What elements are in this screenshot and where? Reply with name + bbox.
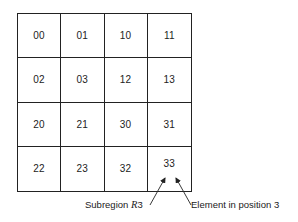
arrow-subregion [150, 178, 165, 205]
label-subregion: Subregion R3 [85, 199, 143, 210]
annotation-arrows [0, 0, 298, 222]
label-element-position: Element in position 3 [191, 199, 279, 210]
arrow-element [176, 178, 191, 205]
